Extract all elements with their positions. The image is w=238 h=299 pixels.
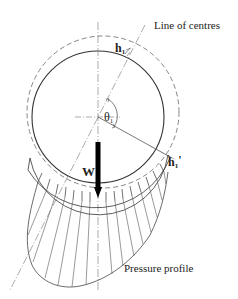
load-arrow-shaft [96,142,101,189]
line-of-centres [10,25,145,290]
h1-prime-label: h1' [168,153,182,170]
load-arrow-head [94,187,102,198]
bearing-circle [27,36,179,188]
pressure-profile-label: Pressure profile [124,262,193,274]
line-of-centres-label: Line of centres [154,19,220,31]
h1-label: h1 [115,41,126,56]
journal-bearing-diagram: Line of centres h1 θ1 h1' W Pressure pro… [0,0,238,299]
theta1-label: θ1 [104,110,114,125]
load-label: W [82,164,95,179]
